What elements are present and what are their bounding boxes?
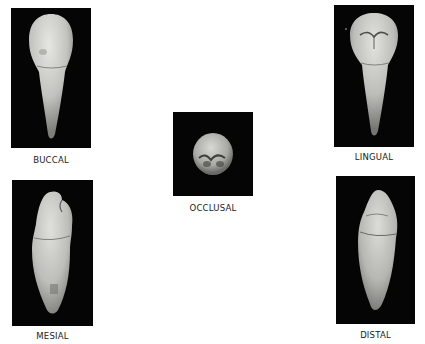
buccal-view-photo (11, 8, 91, 148)
lingual-view-photo (334, 5, 414, 147)
occlusal-caption: OCCLUSAL (173, 203, 253, 213)
tooth-distal-icon (336, 176, 415, 324)
mesial-caption: MESIAL (12, 331, 93, 341)
tooth-lingual-icon (334, 5, 414, 147)
distal-caption: DISTAL (336, 330, 415, 340)
tooth-occlusal-icon (173, 112, 253, 196)
occlusal-view-photo (173, 112, 253, 196)
buccal-caption: BUCCAL (11, 155, 91, 165)
tooth-buccal-icon (11, 8, 91, 148)
mesial-view-photo (12, 180, 93, 326)
distal-view-photo (336, 176, 415, 324)
tooth-mesial-icon (12, 180, 93, 326)
lingual-caption: LINGUAL (334, 152, 414, 162)
